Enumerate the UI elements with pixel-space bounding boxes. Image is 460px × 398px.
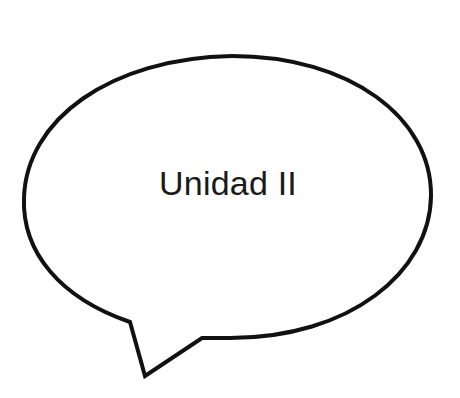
bubble-label: Unidad II	[0, 164, 456, 203]
speech-bubble-outline	[24, 56, 431, 376]
